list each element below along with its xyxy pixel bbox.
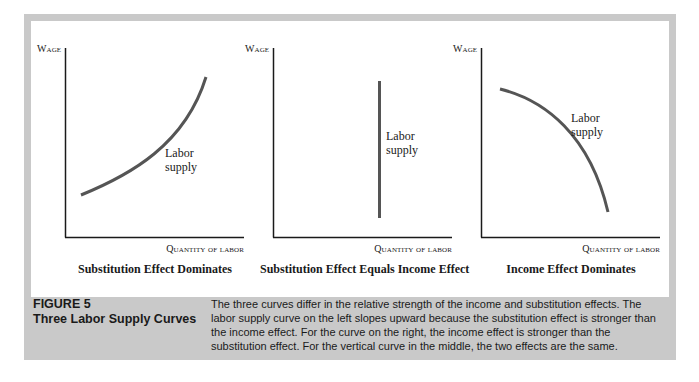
- panel-3-xlabel: Quantity of labor: [568, 243, 660, 254]
- panel-2-xlabel: Quantity of labor: [360, 243, 452, 254]
- panel-1-curve-label: Labor supply: [165, 146, 197, 174]
- panel-1-xlabel: Quantity of labor: [152, 243, 244, 254]
- curve-label-line1: Labor: [571, 111, 603, 125]
- panel-3-curve-label: Labor supply: [571, 111, 603, 139]
- panel-3-ylabel: Wage: [453, 43, 477, 54]
- curve-label-line2: supply: [386, 143, 418, 157]
- panel-3-title: Income Effect Dominates: [481, 262, 661, 277]
- figure-number: FIGURE 5: [33, 297, 196, 312]
- panel-1-supply-curve: [81, 77, 206, 195]
- panel-3-axes: [481, 48, 660, 238]
- figure-caption-heading: FIGURE 5 Three Labor Supply Curves: [33, 297, 196, 327]
- curve-label-line1: Labor: [386, 129, 418, 143]
- panel-2-axes: [273, 48, 452, 238]
- panel-1-ylabel: Wage: [37, 43, 61, 54]
- panel-2-ylabel: Wage: [245, 43, 269, 54]
- curve-label-line2: supply: [165, 160, 197, 174]
- panel-1-axes: [65, 48, 244, 238]
- curve-label-line2: supply: [571, 125, 603, 139]
- figure-title: Three Labor Supply Curves: [33, 312, 196, 327]
- panel-1-title: Substitution Effect Dominates: [65, 262, 245, 277]
- panel-3-supply-curve: [500, 89, 608, 212]
- panel-2-curve-label: Labor supply: [386, 129, 418, 157]
- curve-label-line1: Labor: [165, 146, 197, 160]
- figure-caption-text: The three curves differ in the relative …: [211, 297, 667, 353]
- panel-2-title: Substitution Effect Equals Income Effect: [260, 262, 465, 277]
